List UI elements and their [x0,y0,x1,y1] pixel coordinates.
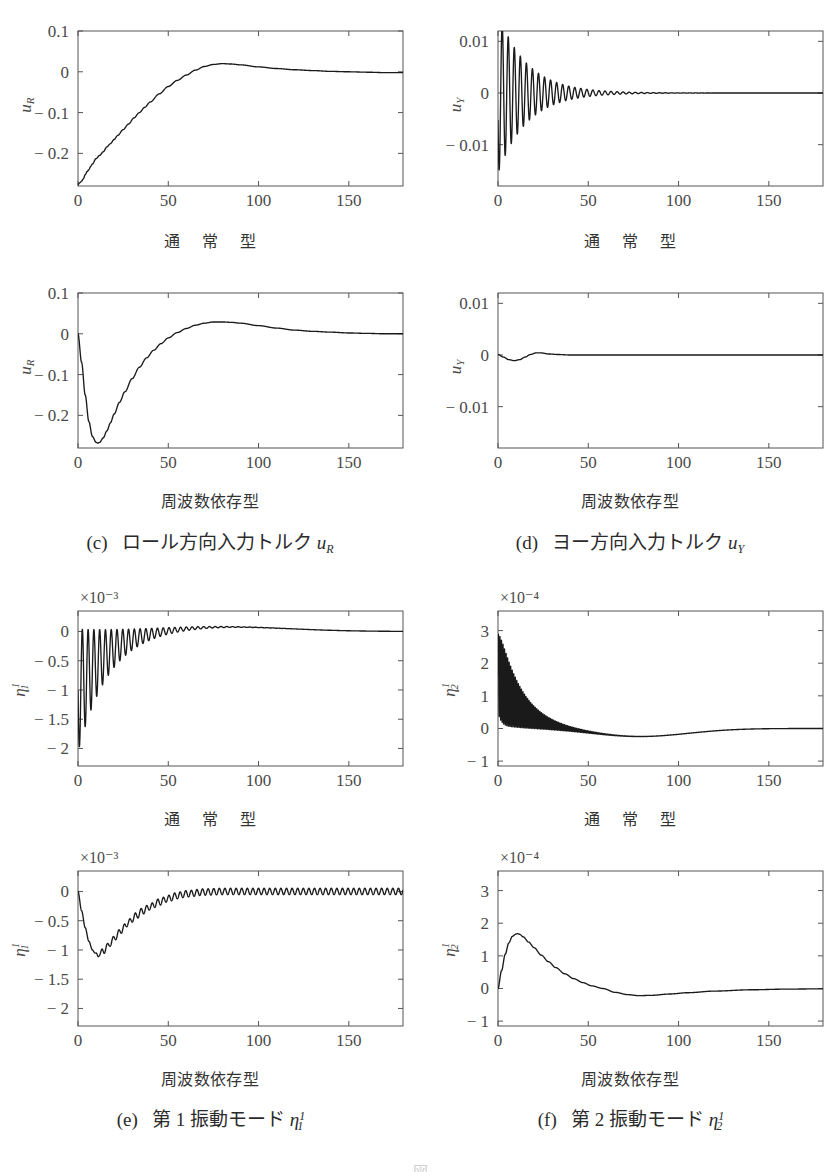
axis-multiplier: ×10⁻⁴ [500,849,539,866]
y-axis-label-f-top: η12 [439,661,460,721]
plot-frame [78,871,403,1026]
x-tick-label: 150 [756,771,782,790]
x-tick-label: 150 [756,1031,782,1050]
y-tick-label: 1 [481,687,490,706]
y-tick-label: − 0.01 [445,136,489,155]
plot-e-bottom: 0501001500− 0.5− 1− 1.5− 2×10⁻³t [0,840,420,1055]
x-tick-label: 100 [246,1031,272,1050]
y-tick-label: − 0.01 [445,398,489,417]
panel-f-bottom: η12 0501001503210− 1×10⁻⁴t 周波数依存型 [420,840,840,1095]
y-tick-label: − 0.2 [34,406,69,425]
caption-f-text: 第 2 振動モード [571,1109,704,1130]
panel-f-top: η12 0501001503210− 1×10⁻⁴t 通 常 型 [420,580,840,835]
panel-d-top: uY 0501001500.010− 0.01t 通 常 型 [420,0,840,260]
data-curve [78,322,403,443]
y-tick-label: − 1 [467,1012,489,1031]
y-tick-label: 0 [481,979,490,998]
y-tick-label: 0 [61,622,70,641]
axis-multiplier: ×10⁻⁴ [500,589,539,606]
y-tick-label: 0 [61,882,70,901]
x-tick-label: 0 [494,191,503,210]
plot-e-top: 0501001500− 0.5− 1− 1.5− 2×10⁻³t [0,580,420,795]
caption-c-tag: (c) [87,532,108,553]
x-tick-label: 100 [666,771,692,790]
row-label-e-bottom: 周波数依存型 [0,1066,420,1090]
x-tick-label: 50 [160,453,177,472]
y-tick-label: − 1 [467,752,489,771]
x-tick-label: 0 [74,191,83,210]
row-label-f-top: 通 常 型 [420,806,840,830]
y-axis-label-d-top: uY [446,75,466,135]
x-tick-label: 50 [160,771,177,790]
panel-c-top: uR 0501001500.10− 0.1− 0.2t 通 常 型 [0,0,420,260]
y-tick-label: − 0.5 [34,652,69,671]
y-tick-label: 0 [481,719,490,738]
x-tick-label: 150 [336,191,362,210]
panel-e-bottom: η11 0501001500− 0.5− 1− 1.5− 2×10⁻³t 周波数… [0,840,420,1095]
data-curve [78,64,403,185]
x-tick-label: 50 [580,191,597,210]
plot-frame [78,293,403,448]
plot-frame [498,611,823,766]
y-tick-label: 2 [481,914,490,933]
caption-c: (c) ロール方向入力トルク uR [0,527,420,557]
caption-f-symbol: η12 [709,1109,722,1130]
y-tick-label: − 2 [47,739,69,758]
caption-e-text: 第 1 振動モード [152,1109,285,1130]
x-tick-label: 150 [336,453,362,472]
y-tick-label: 3 [481,622,490,641]
y-tick-label: 3 [481,882,490,901]
y-axis-label-c-top: uR [16,75,36,135]
axis-multiplier: ×10⁻³ [80,589,118,606]
caption-d-symbol: uY [728,532,744,553]
x-tick-label: 100 [246,191,272,210]
data-curve [498,934,823,996]
data-curve [78,626,403,746]
x-tick-label: 50 [580,771,597,790]
x-tick-label: 150 [756,191,782,210]
plot-frame [498,31,823,186]
x-tick-label: 0 [494,453,503,472]
x-tick-label: 150 [756,453,782,472]
x-tick-label: 50 [160,1031,177,1050]
panel-e-top: η11 0501001500− 0.5− 1− 1.5− 2×10⁻³t 通 常… [0,580,420,835]
caption-e: (e) 第 1 振動モード η11 [0,1104,420,1134]
x-tick-label: 0 [74,771,83,790]
row-label-d-bottom: 周波数依存型 [420,488,840,512]
y-tick-label: 1 [481,947,490,966]
row-label-c-top: 通 常 型 [0,228,420,252]
caption-f-tag: (f) [538,1109,557,1130]
plot-frame [78,31,403,186]
x-tick-label: 0 [74,453,83,472]
x-tick-label: 100 [246,771,272,790]
y-tick-label: 0.01 [459,32,489,51]
row-label-e-top: 通 常 型 [0,806,420,830]
plot-frame [78,611,403,766]
plot-c-bottom: 0501001500.10− 0.1− 0.2t [0,262,420,477]
caption-c-symbol: uR [317,532,334,553]
plot-f-bottom: 0501001503210− 1×10⁻⁴t [420,840,840,1055]
x-tick-label: 0 [494,1031,503,1050]
y-tick-label: − 1 [47,941,69,960]
data-curve [498,353,823,361]
data-curve [498,31,823,170]
y-tick-label: 0.01 [459,294,489,313]
x-tick-label: 50 [580,453,597,472]
axis-multiplier: ×10⁻³ [80,849,118,866]
x-tick-label: 100 [246,453,272,472]
panel-d-bottom: uY 0501001500.010− 0.01t 周波数依存型 [420,262,840,517]
y-axis-label-d-bottom: uY [446,337,466,397]
caption-d-text: ヨー方向入力トルク [552,532,723,553]
y-tick-label: 0 [481,84,490,103]
x-tick-label: 0 [74,1031,83,1050]
caption-f: (f) 第 2 振動モード η12 [420,1104,840,1134]
caption-d-tag: (d) [516,532,538,553]
y-tick-label: 2 [481,654,490,673]
y-tick-label: 0.1 [48,284,69,303]
y-tick-label: − 0.2 [34,144,69,163]
plot-frame [498,871,823,1026]
caption-e-symbol: η11 [290,1109,303,1130]
y-axis-label-f-bottom: η12 [439,921,460,981]
y-axis-label-c-bottom: uR [16,337,36,397]
plot-d-bottom: 0501001500.010− 0.01t [420,262,840,477]
